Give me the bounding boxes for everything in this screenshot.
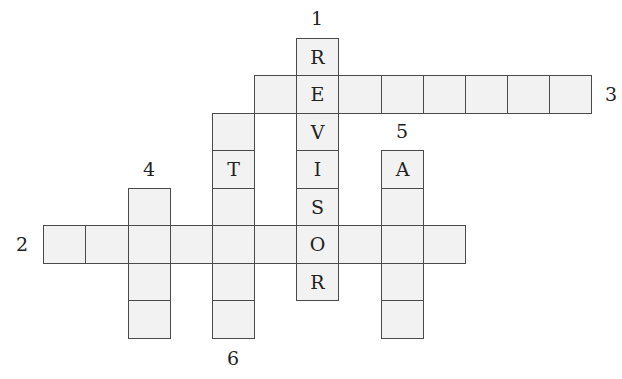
clue-number-1: 1 xyxy=(311,9,323,28)
crossword-cell[interactable] xyxy=(128,300,171,339)
crossword-cell[interactable] xyxy=(128,188,171,226)
crossword-cell[interactable] xyxy=(423,225,466,264)
crossword-cell[interactable] xyxy=(212,188,255,226)
crossword-cell[interactable] xyxy=(212,225,255,264)
crossword-cell[interactable] xyxy=(212,300,255,339)
cell-letter: A xyxy=(396,160,410,179)
clue-number-5: 5 xyxy=(396,122,408,141)
crossword-cell[interactable] xyxy=(549,75,592,114)
cell-letter: T xyxy=(227,160,240,179)
crossword-cell[interactable] xyxy=(507,75,550,114)
crossword-cell[interactable] xyxy=(338,225,382,264)
crossword-cell[interactable]: T xyxy=(212,150,255,189)
clue-number-4: 4 xyxy=(143,160,155,179)
clue-number-6: 6 xyxy=(227,349,239,368)
crossword-cell[interactable]: V xyxy=(296,113,339,151)
crossword-cell[interactable] xyxy=(381,263,424,301)
crossword-cell[interactable] xyxy=(423,75,466,114)
crossword-cell[interactable] xyxy=(338,75,382,114)
crossword-cell[interactable] xyxy=(465,75,508,114)
cell-letter: R xyxy=(310,48,324,67)
clue-number-2: 2 xyxy=(16,235,28,254)
cell-letter: R xyxy=(310,273,324,292)
crossword-cell[interactable] xyxy=(170,225,213,264)
crossword-cell[interactable] xyxy=(43,225,86,264)
crossword-cell[interactable] xyxy=(381,225,424,264)
cell-letter: O xyxy=(310,235,326,254)
clue-number-3: 3 xyxy=(605,85,617,104)
crossword-cell[interactable] xyxy=(254,75,297,114)
cell-letter: I xyxy=(314,160,322,179)
crossword-cell[interactable] xyxy=(128,263,171,301)
crossword-cell[interactable] xyxy=(85,225,129,264)
crossword-grid: REVISORTA136542 xyxy=(0,0,622,379)
crossword-cell[interactable]: E xyxy=(296,75,339,114)
cell-letter: E xyxy=(311,85,325,104)
crossword-cell[interactable] xyxy=(212,113,255,151)
cell-letter: V xyxy=(311,123,325,142)
crossword-cell[interactable]: R xyxy=(296,263,339,301)
crossword-cell[interactable] xyxy=(381,188,424,226)
crossword-cell[interactable] xyxy=(254,225,297,264)
crossword-cell[interactable] xyxy=(381,75,424,114)
crossword-cell[interactable] xyxy=(381,300,424,339)
crossword-cell[interactable]: R xyxy=(296,38,339,76)
crossword-cell[interactable]: A xyxy=(381,150,424,189)
crossword-cell[interactable]: I xyxy=(296,150,339,189)
crossword-cell[interactable]: O xyxy=(296,225,339,264)
cell-letter: S xyxy=(311,198,324,217)
crossword-cell[interactable]: S xyxy=(296,188,339,226)
crossword-cell[interactable] xyxy=(212,263,255,301)
crossword-cell[interactable] xyxy=(128,225,171,264)
